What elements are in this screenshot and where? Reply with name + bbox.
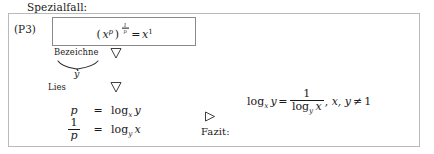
bezeichne-label: Bezeichne (54, 47, 99, 57)
triangle-right-icon (204, 111, 215, 122)
condition-relation: ≠ (351, 95, 364, 108)
boxed-formula-expression: (xp)1p=x1 (53, 22, 195, 41)
log-subscript: y (128, 129, 132, 138)
conclusion-numerator: 1 (290, 88, 324, 100)
page-title: Spezialfall: (27, 1, 87, 13)
condition-value: 1 (364, 95, 371, 108)
log-operator: log (111, 123, 128, 136)
log-subscript: x (128, 110, 132, 119)
equation-array: p = logx y 1p = logy x (63, 101, 141, 139)
formula-outer-exponent-denominator: p (122, 28, 129, 34)
log-argument: y (134, 104, 140, 117)
conclusion-denominator-argument: x (315, 100, 321, 113)
lies-label: Lies (48, 82, 66, 92)
conclusion-formula: logx y=1logy x, x, y≠1 (247, 88, 371, 113)
formula-result-exponent: 1 (148, 26, 153, 35)
fazit-label: Fazit: (201, 126, 230, 137)
equation-relation: = (85, 123, 111, 136)
equation-row: 1p = logy x (63, 120, 141, 139)
log-operator: log (111, 104, 128, 117)
equation-rhs: logy x (111, 123, 141, 136)
boxed-formula: (xp)1p=x1 (52, 17, 196, 46)
triangle-down-icon (110, 47, 122, 59)
equation-relation: = (85, 104, 111, 117)
equation-lhs-denominator: p (68, 129, 79, 142)
equation-lhs-numerator: 1 (68, 117, 79, 129)
rule-tag-p3: (P3) (14, 23, 36, 35)
formula-relation: = (130, 28, 142, 41)
conclusion-relation: = (277, 95, 289, 108)
conclusion-log-subscript: x (264, 101, 268, 110)
slide-canvas: Spezialfall: (P3) (xp)1p=x1 Bezeichne y … (0, 0, 434, 154)
log-argument: x (135, 123, 141, 136)
equation-rhs: logx y (111, 104, 141, 117)
equation-lhs: 1p (63, 117, 85, 142)
conclusion-log-argument: y (270, 95, 276, 108)
underbrace-label: y (74, 68, 79, 79)
conclusion-denominator-operator: log (292, 100, 309, 113)
equation-lhs: p (63, 104, 85, 117)
condition-variables: x, y (332, 95, 351, 108)
triangle-down-icon (110, 81, 122, 93)
conclusion-denominator-subscript: y (309, 106, 313, 115)
conclusion-log-operator: log (247, 95, 264, 108)
conclusion-separator: , (325, 95, 329, 108)
